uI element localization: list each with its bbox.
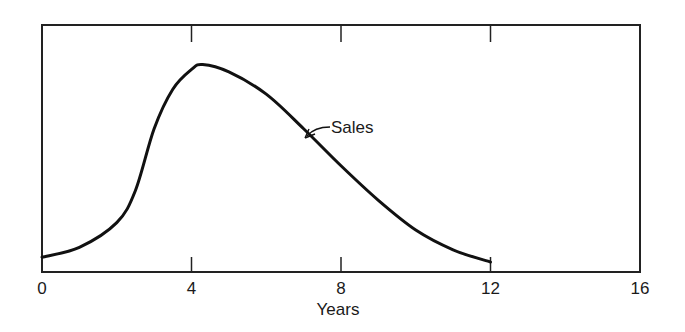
x-axis-tick-labels: 0481216 [37,279,649,298]
sales-annotation: Sales [305,118,374,138]
x-tick-label: 4 [187,279,196,298]
x-axis-title: Years [317,300,360,319]
x-tick-label: 16 [631,279,650,298]
x-tick-label: 8 [336,279,345,298]
plot-frame [42,25,640,272]
x-tick-label: 12 [481,279,500,298]
sales-label: Sales [331,118,374,137]
sales-line [42,64,491,262]
x-axis-ticks [192,25,491,272]
sales-chart: 0481216 Sales Years [0,0,685,332]
x-tick-label: 0 [37,279,46,298]
